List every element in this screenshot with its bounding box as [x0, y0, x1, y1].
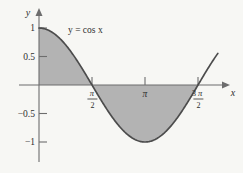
y-tick-label: 1: [30, 23, 35, 33]
fraction-numerator-pi: π: [90, 88, 95, 98]
x-axis-arrowhead: [222, 82, 230, 89]
cosine-plot-svg: y x y = cos x 10.5−0.5−1 π2π3π2: [0, 0, 243, 173]
x-tick-label-fraction: 3π2: [192, 88, 203, 110]
fraction-denominator: 2: [91, 101, 95, 110]
fraction-numerator-pi: π: [198, 88, 203, 98]
cosine-graph-figure: y x y = cos x 10.5−0.5−1 π2π3π2: [0, 0, 243, 173]
y-tick-label: 0.5: [23, 52, 35, 62]
fraction-denominator: 2: [197, 101, 201, 110]
y-tick-label: −0.5: [18, 109, 35, 119]
fraction-coefficient: 3: [192, 89, 196, 98]
x-axis-label: x: [230, 87, 236, 98]
y-axis-label: y: [25, 7, 31, 18]
x-axis-ticks: [92, 77, 198, 85]
curve-equation-label: y = cos x: [68, 25, 103, 35]
y-tick-label: −1: [25, 137, 35, 147]
x-tick-label: π: [143, 89, 148, 99]
y-axis-arrowhead: [36, 8, 43, 16]
